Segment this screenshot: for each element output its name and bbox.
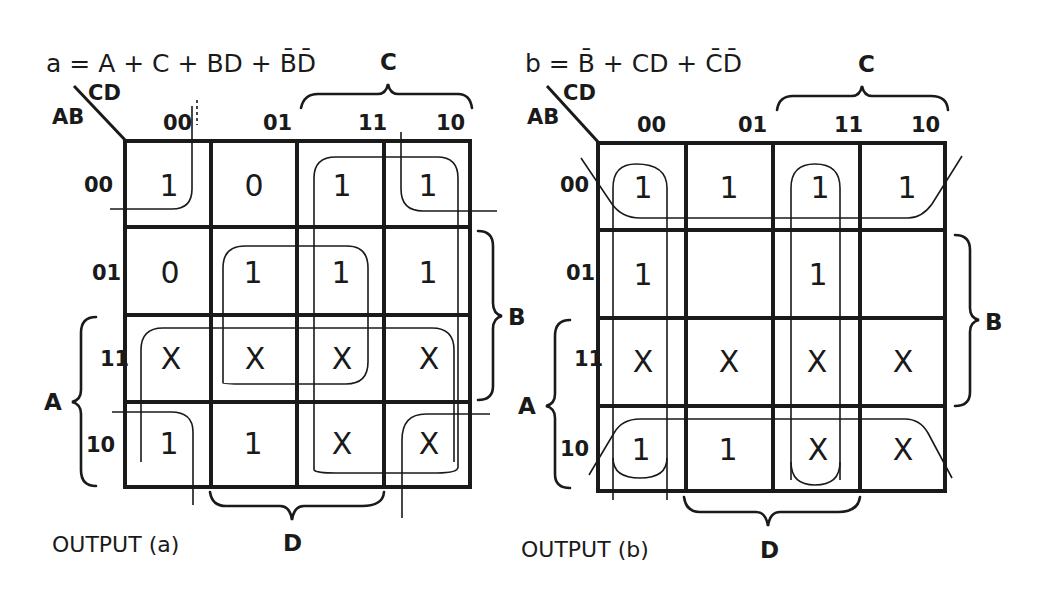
cell-value: 1 bbox=[810, 170, 829, 205]
equation-a: a = A + C + BD + B̄D̄ bbox=[46, 48, 316, 78]
row-header: 00 bbox=[84, 173, 113, 197]
cell-value: X bbox=[807, 344, 828, 379]
cell-value: 1 bbox=[897, 170, 916, 205]
row-header: 00 bbox=[560, 173, 589, 197]
col-header: 10 bbox=[911, 113, 940, 137]
cell-value: 1 bbox=[331, 255, 350, 290]
brace-a bbox=[72, 317, 96, 486]
cell-value: X bbox=[719, 344, 740, 379]
col-header: 11 bbox=[358, 111, 387, 135]
cell-value: X bbox=[161, 341, 182, 376]
brace-label-d: D bbox=[760, 537, 779, 563]
brace-label-b: B bbox=[985, 309, 1003, 335]
cell-value: 1 bbox=[633, 170, 652, 205]
cell-value: 1 bbox=[243, 255, 262, 290]
col-header: 11 bbox=[834, 113, 863, 137]
brace-d bbox=[684, 497, 860, 526]
equation-b: b = B̄ + CD + C̄D̄ bbox=[525, 48, 742, 78]
cell-value: X bbox=[332, 341, 353, 376]
brace-d bbox=[210, 492, 384, 520]
kmap-b: b = B̄ + CD + C̄D̄ CD AB 00 01 11 10 00 … bbox=[518, 48, 1003, 563]
brace-label-d: D bbox=[283, 530, 302, 556]
row-header: 01 bbox=[92, 261, 121, 285]
cell-value: X bbox=[419, 426, 440, 461]
brace-label-c: C bbox=[858, 51, 875, 77]
col-header: 10 bbox=[436, 111, 465, 135]
cell-value: 1 bbox=[418, 255, 437, 290]
brace-label-b: B bbox=[508, 304, 526, 330]
cell-value: 1 bbox=[633, 257, 652, 292]
caption-b: OUTPUT (b) bbox=[521, 537, 649, 562]
loop-corner-tr bbox=[401, 132, 497, 211]
col-header: 01 bbox=[263, 111, 292, 135]
cell-value: 1 bbox=[418, 168, 437, 203]
brace-b bbox=[478, 231, 502, 400]
col-header: 01 bbox=[738, 113, 767, 137]
corner-row-var-b: AB bbox=[527, 105, 559, 129]
cell-value: 1 bbox=[808, 257, 827, 292]
brace-b bbox=[955, 235, 979, 406]
cell-value: 1 bbox=[159, 168, 178, 203]
cell-value: X bbox=[808, 432, 829, 467]
row-header: 10 bbox=[86, 433, 115, 457]
row-header: 10 bbox=[560, 437, 589, 461]
col-header: 00 bbox=[163, 111, 192, 135]
cell-value: X bbox=[893, 344, 914, 379]
cell-value: 1 bbox=[718, 432, 737, 467]
cell-value: 1 bbox=[159, 426, 178, 461]
brace-c bbox=[777, 86, 948, 110]
brace-label-a: A bbox=[44, 389, 62, 415]
row-header: 01 bbox=[566, 261, 595, 285]
cell-value: 0 bbox=[160, 255, 179, 290]
caption-a: OUTPUT (a) bbox=[52, 532, 179, 557]
loop-corner-br bbox=[402, 414, 490, 518]
karnaugh-maps-figure: a = A + C + BD + B̄D̄ CD AB 00 01 11 10 … bbox=[0, 0, 1043, 598]
corner-col-var-a: CD bbox=[88, 81, 121, 105]
kmap-a: a = A + C + BD + B̄D̄ CD AB 00 01 11 10 … bbox=[44, 48, 526, 557]
cell-value: X bbox=[332, 426, 353, 461]
cell-value: 1 bbox=[719, 170, 738, 205]
cell-value: 1 bbox=[631, 432, 650, 467]
cell-value: X bbox=[245, 341, 266, 376]
corner-row-var-a: AB bbox=[52, 105, 84, 129]
cell-value: X bbox=[419, 341, 440, 376]
brace-a bbox=[546, 320, 570, 488]
cell-value: X bbox=[633, 344, 654, 379]
brace-label-c: C bbox=[380, 49, 397, 75]
cell-value: 1 bbox=[332, 168, 351, 203]
corner-col-var-b: CD bbox=[563, 81, 596, 105]
cell-value: 1 bbox=[243, 426, 262, 461]
cell-value: 0 bbox=[244, 168, 263, 203]
brace-label-a: A bbox=[518, 393, 536, 419]
brace-c bbox=[301, 84, 472, 108]
col-header: 00 bbox=[637, 113, 666, 137]
cell-value: X bbox=[893, 432, 914, 467]
